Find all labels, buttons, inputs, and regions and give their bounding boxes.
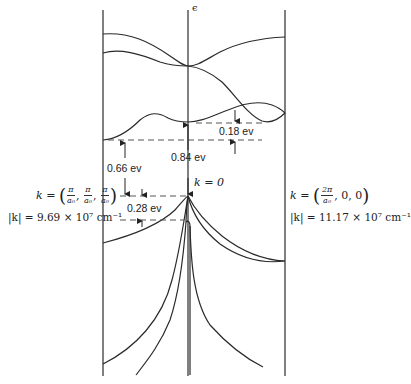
valence-band-steep-right — [190, 226, 263, 367]
right-k-vector-label: k = (2πa₀, 0, 0) — [290, 186, 369, 205]
left-k-component-1: πa₀ — [67, 186, 75, 205]
k-zero-label: k = 0 — [194, 177, 224, 188]
upper-band-2 — [103, 51, 285, 122]
valence-band-right-2 — [188, 196, 285, 262]
gap-label-0-18: 0.18 ev — [219, 125, 253, 137]
gap-label-0-28: 0.28 ev — [127, 202, 161, 214]
energy-axis-label: ϵ — [192, 2, 198, 13]
left-k-vector-label: k = (πa₀, πa₀, πa₀) — [36, 186, 117, 205]
conduction-band-lowest — [103, 103, 285, 140]
left-k-component-2: πa₀ — [84, 186, 92, 205]
right-k-component-1: 2πa₀ — [321, 186, 333, 205]
right-k-magnitude: |k| = 11.17 × 10⁷ cm⁻¹ — [290, 212, 411, 223]
gap-label-0-66: 0.66 ev — [107, 162, 141, 174]
left-k-component-3: πa₀ — [101, 186, 109, 205]
gap-label-0-84: 0.84 ev — [171, 151, 205, 163]
valence-band-right-1 — [188, 196, 285, 261]
left-k-magnitude: |k| = 9.69 × 10⁷ cm⁻¹ — [8, 212, 122, 223]
valence-band-steep-left-2 — [136, 222, 186, 375]
upper-band-1 — [103, 34, 285, 66]
